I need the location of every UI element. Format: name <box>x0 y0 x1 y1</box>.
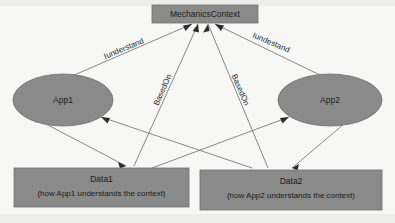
edge-data1-to-app2 <box>152 117 289 168</box>
node-mechanics-context[interactable]: MechanicsContext <box>152 5 258 23</box>
edge-data2-to-context <box>203 24 268 168</box>
node-app1[interactable]: App1 <box>13 74 113 126</box>
edge-data2-to-app1 <box>101 117 252 168</box>
node-app2[interactable]: App2 <box>278 74 382 126</box>
node-data2[interactable]: Data2 (how App2 understands the context) <box>200 170 382 210</box>
edge-app1-data1 <box>46 124 126 169</box>
node-data2-sublabel: (how App2 understands the context) <box>227 191 355 200</box>
node-app1-label: App1 <box>53 95 73 105</box>
node-data2-label: Data2 <box>280 176 303 186</box>
node-data1-sublabel: (how App1 understands the context) <box>37 189 165 198</box>
node-data1-label: Data1 <box>90 174 113 184</box>
node-app2-label: App2 <box>320 95 340 105</box>
diagram-canvas: MechanicsContext App1 App2 Data1 (how Ap… <box>0 0 395 223</box>
edge-app2-to-context <box>215 24 322 76</box>
edge-label-app1-to-context: Iunderstand <box>103 36 145 61</box>
node-data1[interactable]: Data1 (how App1 understands the context) <box>14 168 189 207</box>
diagram-graphic: MechanicsContext App1 App2 Data1 (how Ap… <box>0 0 395 223</box>
node-mechanics-context-label: MechanicsContext <box>170 9 241 19</box>
edge-app2-data2 <box>292 124 344 171</box>
